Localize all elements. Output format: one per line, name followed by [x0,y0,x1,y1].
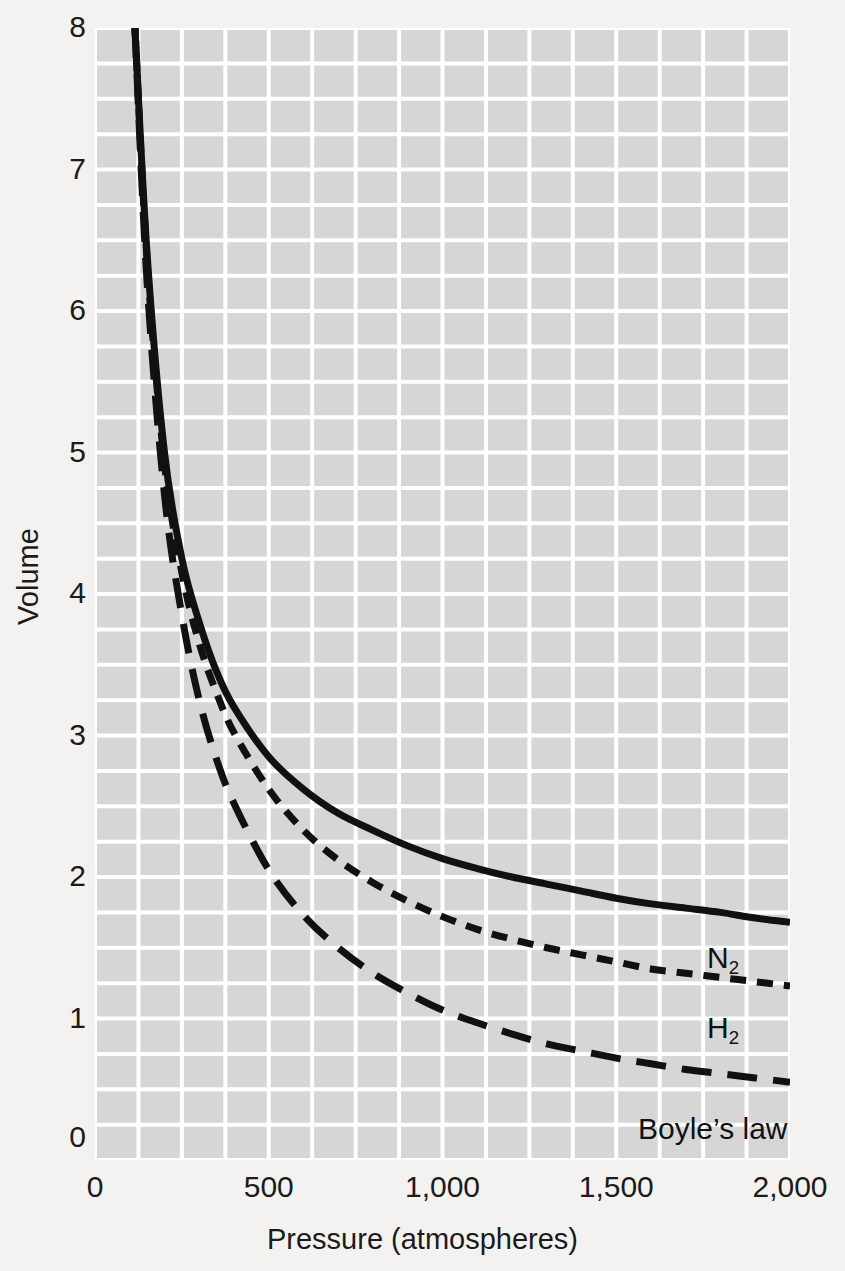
y-tick-label: 3 [26,720,86,750]
y-tick-label: 6 [26,295,86,325]
x-tick-label: 1,000 [405,1172,480,1202]
y-tick-label: 7 [26,154,86,184]
curve-n2 [135,28,790,922]
x-tick-label: 0 [87,1172,104,1202]
y-axis-title: Volume [12,497,45,657]
series-label-n2-text: N2 [707,941,739,974]
y-tick-label: 0 [26,1122,86,1152]
series-label-h2-text: H2 [707,1011,739,1044]
series-label-n2: N2 [707,943,739,973]
y-tick-label: 8 [26,12,86,42]
y-tick-label: 1 [26,1003,86,1033]
curves-layer [95,28,790,1160]
x-axis-ticks: 05001,0001,5002,000 [0,1172,845,1216]
x-tick-label: 1,500 [579,1172,654,1202]
curve-boyle-s-law [135,28,790,1082]
y-tick-label: 5 [26,437,86,467]
chart-figure: N2 H2 Boyle’s law 012345678 05001,0001,5… [0,0,845,1271]
series-label-boyles-law: Boyle’s law [638,1114,788,1144]
series-label-h2: H2 [707,1013,739,1043]
curve-h2 [135,28,790,986]
x-tick-label: 500 [244,1172,294,1202]
y-tick-label: 2 [26,861,86,891]
x-axis-title: Pressure (atmospheres) [0,1223,845,1256]
series-label-boyles-law-text: Boyle’s law [638,1112,788,1145]
plot-area: N2 H2 Boyle’s law [95,28,790,1160]
x-tick-label: 2,000 [752,1172,827,1202]
